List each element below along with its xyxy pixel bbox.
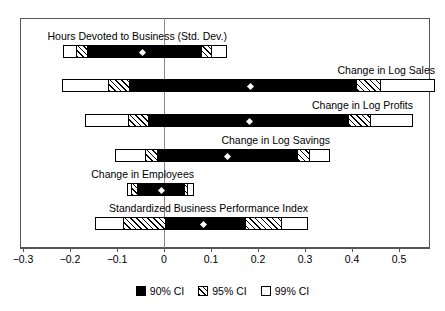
x-axis-line [20, 248, 430, 249]
legend-item-ci90: 90% CI [136, 285, 184, 297]
legend-label-ci99: 99% CI [275, 285, 309, 297]
x-tick-label: 0.1 [204, 253, 219, 265]
x-tick-mark [117, 248, 118, 252]
estimate-row: Change in Log Sales [0, 64, 445, 98]
ci-segment-ci90 [129, 79, 357, 92]
legend-swatch-ci99-icon [261, 286, 271, 296]
estimate-row-label: Hours Devoted to Business (Std. Dev.) [0, 30, 227, 43]
estimate-row: Change in Employees [0, 168, 445, 202]
estimate-row: Standardized Business Performance Index [0, 202, 445, 236]
chart-legend: 90% CI 95% CI 99% CI [0, 285, 445, 297]
confidence-interval-bar [0, 183, 445, 196]
confidence-interval-bar [0, 217, 445, 230]
confidence-interval-chart: Hours Devoted to Business (Std. Dev.)Cha… [0, 0, 445, 311]
x-tick-label: −0.1 [107, 253, 128, 265]
legend-label-ci90: 90% CI [150, 285, 184, 297]
x-tick-mark [211, 248, 212, 252]
estimate-row: Change in Log Profits [0, 99, 445, 133]
estimate-row: Change in Log Savings [0, 134, 445, 168]
estimate-row-label: Change in Log Profits [0, 99, 413, 112]
estimate-row-label: Standardized Business Performance Index [0, 202, 308, 215]
x-tick-mark [352, 248, 353, 252]
legend-swatch-ci90-icon [136, 286, 146, 296]
estimate-row: Hours Devoted to Business (Std. Dev.) [0, 30, 445, 64]
x-tick-mark [23, 248, 24, 252]
estimate-row-label: Change in Employees [0, 168, 194, 181]
x-tick-label: −0.3 [13, 253, 34, 265]
confidence-interval-bar [0, 79, 445, 92]
confidence-interval-bar [0, 114, 445, 127]
x-tick-label: 0.4 [345, 253, 360, 265]
x-tick-mark [164, 248, 165, 252]
x-tick-mark [399, 248, 400, 252]
x-tick-mark [70, 248, 71, 252]
x-tick-label: 0.3 [298, 253, 313, 265]
x-tick-label: 0 [161, 253, 167, 265]
legend-label-ci95: 95% CI [212, 285, 246, 297]
legend-item-ci99: 99% CI [261, 285, 309, 297]
x-tick-label: 0.2 [251, 253, 266, 265]
x-tick-mark [258, 248, 259, 252]
estimate-row-label: Change in Log Savings [0, 134, 330, 147]
estimate-row-label: Change in Log Sales [0, 64, 435, 77]
legend-swatch-ci95-icon [198, 286, 208, 296]
confidence-interval-bar [0, 149, 445, 162]
x-tick-label: 0.5 [392, 253, 407, 265]
x-tick-label: −0.2 [60, 253, 81, 265]
confidence-interval-bar [0, 45, 445, 58]
x-tick-mark [305, 248, 306, 252]
legend-item-ci95: 95% CI [198, 285, 246, 297]
